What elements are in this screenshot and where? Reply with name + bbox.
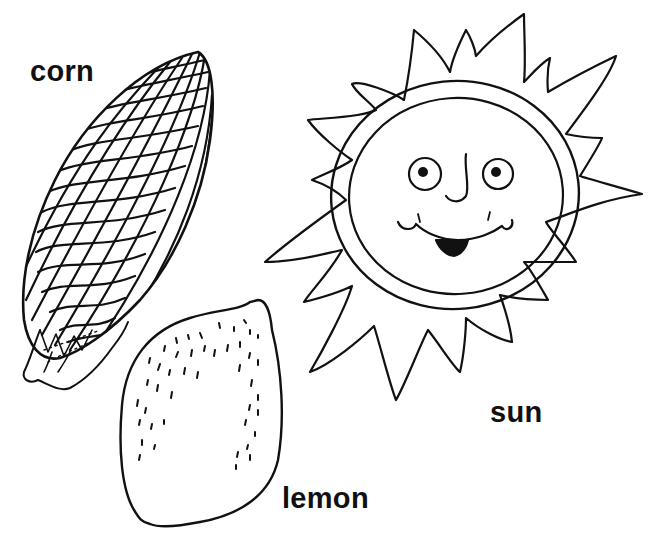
lemon-drawing [121,300,282,526]
sun-eyes [409,158,513,190]
label-sun: sun [490,398,542,427]
sun-smile [398,220,512,240]
sun-rays [265,14,642,400]
sun-drawing [265,14,642,400]
lemon-texture-dots [137,320,258,469]
sun-tongue [436,240,468,256]
corn-drawing [22,52,213,389]
sun-face-ring [342,91,569,301]
sun-nose [446,154,467,201]
sun-outer-ring [320,69,590,322]
label-corn: corn [30,57,94,86]
drawing-layer [0,0,660,552]
illustration-canvas: corn sun lemon [0,0,660,552]
label-lemon: lemon [282,484,369,513]
